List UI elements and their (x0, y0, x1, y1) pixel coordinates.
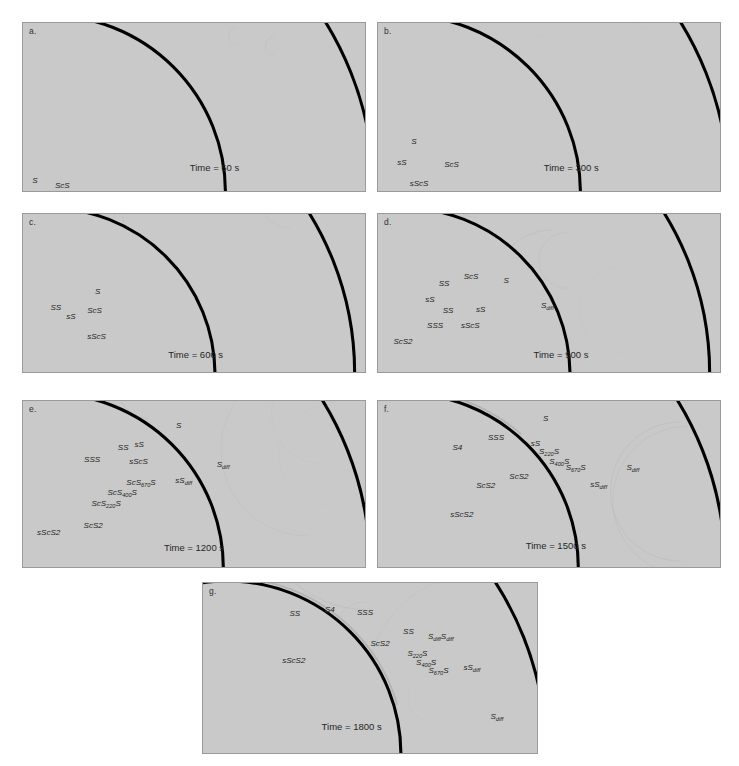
wavefield-panel-a: a.Time = 60 sSScS (22, 22, 366, 192)
wavefield-canvas (378, 401, 720, 567)
wavefield-canvas (23, 23, 365, 191)
wavefield-canvas (23, 214, 365, 372)
wavefield-canvas (378, 214, 720, 372)
wavefield-canvas (23, 401, 365, 567)
wavefield-panel-b: b.Time = 300 sSsSScSsScS (377, 22, 721, 192)
wavefield-panel-e: e.Time = 1200 sSSSsSSSSsScSSdiffScS670Ss… (22, 400, 366, 568)
wavefield-panel-c: c.Time = 600 sSSSsSScSsScS (22, 213, 366, 373)
wavefield-canvas (203, 583, 537, 753)
wavefield-canvas (378, 23, 720, 191)
wavefield-panel-f: f.Time = 1500 sSSSSS4sSS220SS400SS670SSd… (377, 400, 721, 568)
wavefield-panel-g: g.Time = 1800 sSSS4SSSSSSdiffSdiffScS2S2… (202, 582, 538, 754)
wavefield-panel-d: d.Time = 900 sSSScSSsSSSsSSdiffSSSsScSSc… (377, 213, 721, 373)
seismic-wavefield-figure: a.Time = 60 sSScSb.Time = 300 sSsSScSsSc… (0, 0, 739, 766)
